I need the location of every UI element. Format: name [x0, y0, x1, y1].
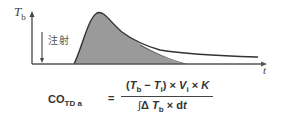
injection-label: 注射 — [48, 32, 70, 47]
fraction-bar — [121, 96, 213, 97]
injection-arrow-icon — [40, 58, 44, 63]
formula-denominator: ∫Δ Tb × dt — [138, 99, 187, 114]
formula-numerator: (Tb − Ti) × Vi × K — [126, 79, 209, 94]
x-axis-label: t — [263, 64, 266, 76]
y-axis-label: Tb — [14, 4, 26, 22]
y-axis-arrow-icon — [30, 11, 35, 17]
formula-equals: = — [108, 92, 114, 104]
formula-lhs: COTD a — [48, 93, 82, 108]
